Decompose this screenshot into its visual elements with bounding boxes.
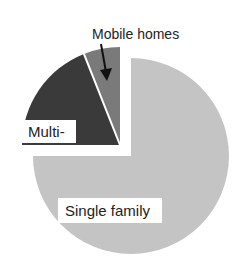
label-mobile-homes: Mobile homes bbox=[92, 27, 179, 41]
label-single-family: Single family bbox=[58, 198, 162, 223]
label-multi-family: Multi- bbox=[22, 120, 76, 143]
